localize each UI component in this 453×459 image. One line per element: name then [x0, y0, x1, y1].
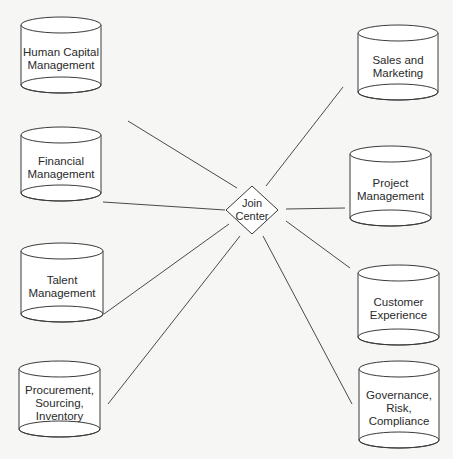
- label-talent: Talent Management: [21, 259, 103, 314]
- label-governance: Governance, Risk, Compliance: [359, 377, 439, 440]
- label-procurement: Procurement, Sourcing, Inventory: [19, 377, 100, 429]
- connector-talent: [104, 224, 229, 314]
- connector-governance: [263, 236, 352, 404]
- label-human-capital: Human Capital Management: [21, 33, 101, 85]
- connector-sales: [266, 87, 343, 186]
- label-sales: Sales and Marketing: [358, 41, 438, 92]
- label-project: Project Management: [350, 162, 431, 218]
- connector-human-capital: [128, 121, 237, 188]
- connector-project: [286, 208, 345, 209]
- join-center-label: Join Center: [226, 186, 278, 234]
- connector-financial: [103, 202, 225, 210]
- connector-procurement: [108, 236, 240, 404]
- label-financial: Financial Management: [21, 143, 101, 193]
- label-customer: Customer Experience: [358, 281, 439, 337]
- connector-lines: [103, 87, 352, 404]
- connector-customer: [286, 221, 350, 268]
